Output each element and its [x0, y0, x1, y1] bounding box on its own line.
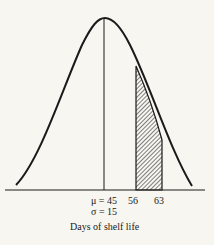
sd-label: σ = 15 — [91, 206, 117, 217]
shaded-region — [136, 66, 162, 190]
tick-label-63: 63 — [154, 195, 164, 206]
tick-label-56: 56 — [128, 195, 138, 206]
mean-label: μ = 45 — [91, 195, 117, 206]
x-axis-label: Days of shelf life — [70, 221, 139, 232]
